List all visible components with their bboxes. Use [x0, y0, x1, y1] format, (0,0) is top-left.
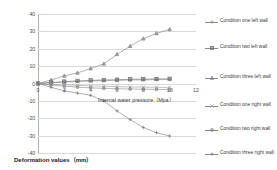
series-marker	[102, 78, 105, 81]
series-marker	[155, 32, 158, 35]
series-marker	[102, 62, 105, 65]
series-marker	[115, 52, 118, 55]
series-marker	[63, 85, 66, 88]
y-tick-label: -30	[28, 133, 35, 139]
series-marker	[128, 44, 131, 47]
series-marker	[142, 126, 145, 129]
y-tick-label: -10	[28, 98, 35, 104]
y-tick-label: 40	[29, 11, 35, 17]
series-marker	[142, 77, 145, 80]
series-marker	[168, 27, 171, 30]
series-marker	[168, 134, 171, 137]
legend-marker-icon	[205, 19, 218, 25]
series-marker	[76, 91, 79, 94]
series-marker	[76, 71, 79, 74]
legend-item-label: Condition two right wall	[220, 126, 270, 133]
series-marker	[63, 74, 66, 77]
series-marker	[142, 37, 145, 40]
series-marker	[168, 77, 171, 80]
series-marker	[115, 78, 118, 81]
series-marker	[89, 94, 92, 97]
series-marker	[142, 88, 145, 91]
series-marker	[155, 77, 158, 80]
legend-marker-icon	[205, 75, 218, 81]
legend-item[interactable]: Condition two left wall	[205, 44, 277, 51]
chart-legend: Condition one left wallCondition two lef…	[205, 14, 277, 154]
series-marker	[128, 78, 131, 81]
y-tick-label: 0	[32, 81, 35, 87]
legend-item[interactable]: Condition one right wall	[205, 102, 277, 109]
legend-marker-icon	[205, 127, 218, 133]
x-axis-title: Internal water pressure（Mpa）	[98, 96, 174, 104]
plot-area: 403020100-10-20-30-40 024681012	[38, 14, 196, 153]
legend-marker-icon	[205, 45, 218, 51]
series-layer	[38, 14, 196, 153]
series-marker	[89, 67, 92, 70]
y-tick-label: 30	[29, 28, 35, 34]
legend-item-label: Condition three left wall	[220, 74, 271, 81]
legend-item[interactable]: Condition three right wall	[205, 150, 277, 157]
legend-item-label: Condition three right wall	[220, 150, 274, 157]
series-marker	[76, 79, 79, 82]
series-marker	[89, 86, 92, 89]
legend-item-label: Condition one right wall	[220, 102, 271, 109]
legend-marker-icon	[205, 103, 218, 109]
series-marker	[102, 87, 105, 90]
series-marker	[63, 80, 66, 83]
y-tick-label: 20	[29, 46, 35, 52]
legend-item[interactable]: Condition three left wall	[205, 74, 277, 81]
series-line	[38, 84, 170, 136]
legend-item[interactable]: Condition two right wall	[205, 126, 277, 133]
series-marker	[49, 78, 52, 81]
y-tick-label: 10	[29, 63, 35, 69]
series-marker	[128, 118, 131, 121]
series-marker	[129, 88, 132, 91]
legend-marker-icon	[205, 151, 218, 157]
y-tick-label: -20	[28, 115, 35, 121]
plot-wrapper: 403020100-10-20-30-40 024681012 Internal…	[0, 0, 200, 170]
series-marker	[168, 88, 171, 91]
series-marker	[155, 131, 158, 134]
series-marker	[63, 89, 66, 92]
series-marker	[116, 87, 119, 90]
y-axis-title-text: Deformation values（mm）	[14, 157, 92, 163]
series-marker	[89, 79, 92, 82]
legend-item-label: Condition two left wall	[220, 44, 267, 51]
legend-item-label: Condition one left wall	[220, 18, 268, 25]
series-line	[38, 29, 170, 83]
series-marker	[76, 86, 79, 89]
y-axis-title: Deformation values（mm）	[14, 155, 92, 164]
gridline	[38, 153, 196, 154]
chart-root: 403020100-10-20-30-40 024681012 Internal…	[0, 0, 277, 170]
legend-item[interactable]: Condition one left wall	[205, 18, 277, 25]
series-marker	[155, 88, 158, 91]
